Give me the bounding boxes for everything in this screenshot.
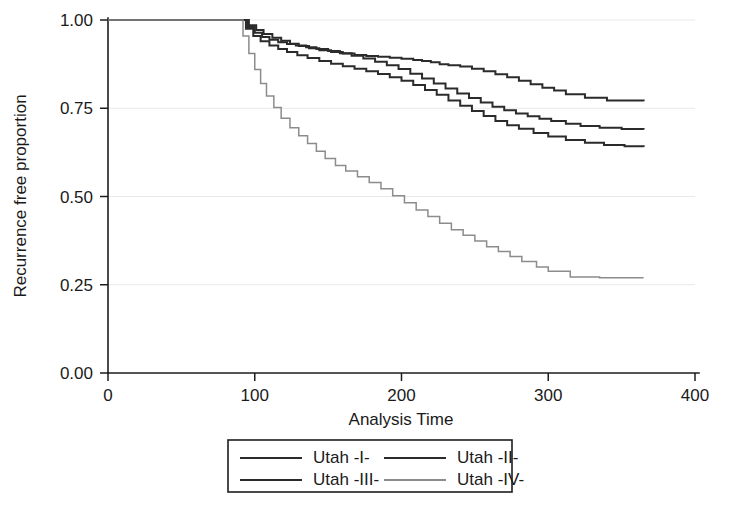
x-tick-label: 200 <box>387 386 415 405</box>
y-axis: 0.000.250.500.751.00 <box>60 11 108 383</box>
legend-label: Utah -II- <box>457 448 518 467</box>
y-tick-label: 0.25 <box>60 276 93 295</box>
y-tick-label: 1.00 <box>60 11 93 30</box>
recurrence-free-survival-chart: 0.000.250.500.751.00 0100200300400 Analy… <box>0 0 730 520</box>
x-tick-label: 400 <box>681 386 709 405</box>
x-tick-label: 100 <box>241 386 269 405</box>
legend-label: Utah -I- <box>313 448 370 467</box>
x-axis-ticks: 0100200300400 <box>103 373 709 405</box>
kaplan-meier-figure: 0.000.250.500.751.00 0100200300400 Analy… <box>0 0 730 520</box>
x-axis: 0100200300400 <box>103 373 709 405</box>
survival-curve <box>108 20 644 147</box>
survival-curve <box>108 20 644 129</box>
y-tick-label: 0.00 <box>60 364 93 383</box>
y-axis-ticks: 0.000.250.500.751.00 <box>60 11 108 383</box>
chart-legend: Utah -I-Utah -II-Utah -III-Utah -IV- <box>228 440 524 492</box>
x-axis-title: Analysis Time <box>349 410 454 429</box>
survival-curves <box>108 20 644 278</box>
legend-label: Utah -III- <box>313 470 379 489</box>
x-tick-label: 0 <box>103 386 112 405</box>
y-axis-title: Recurrence free proportion <box>11 94 30 297</box>
x-tick-label: 300 <box>534 386 562 405</box>
y-tick-label: 0.50 <box>60 188 93 207</box>
legend-label: Utah -IV- <box>457 470 524 489</box>
y-tick-label: 0.75 <box>60 99 93 118</box>
